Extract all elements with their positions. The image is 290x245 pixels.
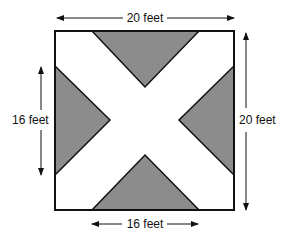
- right-height-label: 20 feet: [239, 113, 276, 127]
- bottom-dimension: 16 feet: [92, 217, 198, 231]
- diagram-canvas: 20 feet 20 feet 16 feet 16 feet: [0, 0, 290, 245]
- top-dimension: 20 feet: [57, 11, 234, 25]
- bottom-base-label: 16 feet: [127, 217, 164, 231]
- right-dimension: 20 feet: [239, 33, 276, 210]
- left-base-label: 16 feet: [12, 113, 49, 127]
- left-dimension: 16 feet: [12, 67, 49, 175]
- top-width-label: 20 feet: [127, 11, 164, 25]
